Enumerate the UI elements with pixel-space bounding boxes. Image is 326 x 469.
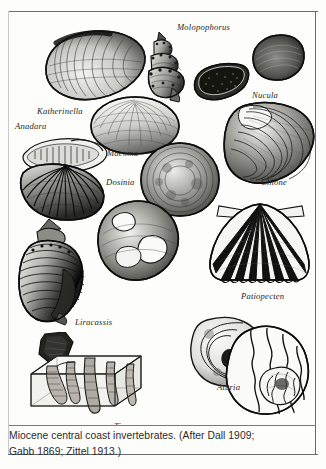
specimen-katherinella bbox=[37, 26, 149, 104]
label-katherinella: Katherinella bbox=[37, 107, 83, 116]
caption-line-2: Gabb 1869; Zittel 1913.) bbox=[9, 444, 315, 460]
specimen-chione bbox=[219, 98, 316, 186]
label-anadara: Anadara bbox=[15, 122, 46, 131]
label-macoma: Macoma bbox=[107, 149, 138, 158]
specimen-molopophorus bbox=[139, 30, 191, 104]
label-molopophorus: Molopophorus bbox=[177, 23, 230, 32]
label-liracassis: Liracassis bbox=[75, 318, 112, 327]
caption-line-1: Miocene central coast invertebrates. (Af… bbox=[9, 428, 315, 444]
caption-separator-rule bbox=[9, 425, 316, 426]
specimen-patiopecten bbox=[203, 194, 316, 286]
label-tisoa: Tisoa bbox=[114, 422, 134, 425]
figure-caption: Miocene central coast invertebrates. (Af… bbox=[9, 428, 315, 459]
label-aturia: Aturia bbox=[217, 383, 240, 392]
label-patiopecten: Patiopecten bbox=[241, 292, 284, 301]
specimen-dosinia-lower bbox=[95, 198, 183, 284]
label-chione: Chione bbox=[261, 178, 287, 187]
figure-area: Katherinella bbox=[9, 12, 316, 425]
specimen-nucula bbox=[247, 32, 309, 84]
illustration-plate: Katherinella bbox=[0, 0, 326, 469]
specimen-liracassis bbox=[13, 217, 97, 327]
label-dosinia: Dosinia bbox=[106, 178, 135, 187]
specimen-tisoa bbox=[23, 350, 149, 425]
specimen-aturia bbox=[187, 314, 316, 425]
